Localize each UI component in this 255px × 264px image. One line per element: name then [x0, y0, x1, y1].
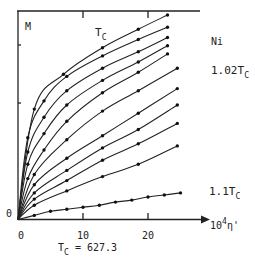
data-point	[33, 183, 36, 186]
data-point	[33, 191, 36, 194]
material-label: Ni	[211, 37, 223, 47]
data-point	[137, 89, 140, 92]
data-point	[65, 138, 68, 141]
data-point	[101, 46, 104, 49]
x-tick-label-20: 20	[142, 231, 154, 241]
data-point	[81, 206, 84, 209]
x-tick-label-0: 0	[18, 231, 24, 241]
data-point	[42, 132, 45, 135]
data-point	[146, 195, 149, 198]
data-point	[42, 99, 45, 102]
data-point	[166, 52, 169, 55]
curve-label-1-1tc-text: 1.1T	[209, 185, 236, 198]
data-point	[49, 210, 52, 213]
data-point	[166, 36, 169, 39]
data-point	[33, 204, 36, 207]
data-point	[137, 60, 140, 63]
tc-annotation: TC = 627.3	[58, 243, 117, 253]
data-point	[26, 177, 29, 180]
data-point	[176, 87, 179, 90]
data-point	[42, 116, 45, 119]
data-point	[65, 208, 68, 211]
data-point	[65, 103, 68, 106]
data-point	[176, 103, 179, 106]
data-point	[166, 44, 169, 47]
data-point	[137, 50, 140, 53]
x-axis-label: 104η'	[210, 221, 239, 231]
x-axis-arrow-icon	[201, 216, 210, 224]
data-point	[101, 109, 104, 112]
data-point	[176, 144, 179, 147]
x-tick-label-10: 10	[77, 231, 89, 241]
data-point	[62, 73, 65, 76]
curve-curve-3	[18, 38, 168, 220]
curve-curve-7	[18, 89, 177, 220]
data-point	[65, 189, 68, 192]
data-point	[166, 26, 169, 29]
data-point	[101, 175, 104, 178]
data-point	[33, 197, 36, 200]
data-point	[137, 163, 140, 166]
data-point	[179, 191, 182, 194]
tc-annotation-sub: C	[64, 248, 69, 257]
data-point	[163, 193, 166, 196]
y-origin-label: 0	[6, 209, 12, 219]
curve-label-tc: TC	[95, 27, 106, 38]
data-point	[137, 112, 140, 115]
data-point	[176, 122, 179, 125]
data-point	[65, 169, 68, 172]
curve-label-1-1tc-sub: C	[236, 192, 241, 201]
curve-label-tc-sub: C	[102, 33, 107, 42]
data-point	[98, 204, 101, 207]
curve-label-tc-text: T	[95, 26, 102, 39]
data-point	[26, 163, 29, 166]
data-point	[101, 67, 104, 70]
data-point	[137, 28, 140, 31]
x-axis-label-base: 10	[210, 220, 222, 231]
curve-curve-4	[18, 46, 168, 220]
tc-annotation-value: = 627.3	[69, 242, 117, 253]
curve-label-1-02tc-sub: C	[244, 71, 249, 80]
data-point	[65, 89, 68, 92]
data-point	[137, 38, 140, 41]
x-axis-label-var: η'	[227, 220, 239, 231]
curve-t-c	[18, 15, 168, 220]
data-point	[26, 136, 29, 139]
curve-label-1-02tc: 1.02TC	[211, 65, 249, 76]
data-point	[166, 13, 169, 16]
data-point	[65, 120, 68, 123]
data-point	[130, 198, 133, 201]
curve-curve-10	[18, 146, 177, 220]
data-point	[65, 157, 68, 160]
data-point	[26, 150, 29, 153]
data-point	[33, 107, 36, 110]
data-point	[65, 179, 68, 182]
data-point	[65, 75, 68, 78]
data-point	[101, 146, 104, 149]
data-point	[33, 173, 36, 176]
data-point	[137, 128, 140, 131]
data-point	[101, 91, 104, 94]
data-points	[26, 13, 182, 217]
curve-label-1-1tc: 1.1TC	[209, 186, 240, 197]
data-point	[101, 159, 104, 162]
curve-label-1-02tc-text: 1.02T	[211, 64, 244, 77]
y-axis-label: M	[25, 22, 31, 32]
data-point	[137, 71, 140, 74]
data-point	[33, 214, 36, 217]
x-axis-label-exp: 4	[222, 217, 227, 226]
data-point	[101, 79, 104, 82]
data-point	[176, 67, 179, 70]
data-point	[101, 54, 104, 57]
data-point	[101, 134, 104, 137]
data-point	[137, 142, 140, 145]
data-point	[114, 200, 117, 203]
data-point	[42, 148, 45, 151]
